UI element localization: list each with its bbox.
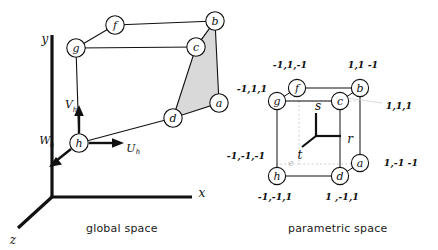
param-node-c: c — [331, 92, 348, 109]
local-basis-vectors: V h U h W h — [39, 98, 140, 168]
hexahedron-mapping-figure: y x z f — [0, 0, 438, 250]
node-label-h-param: h — [273, 170, 280, 183]
y-axis-label: y — [41, 32, 49, 46]
global-node-h: h — [70, 134, 88, 152]
t-axis-label: t — [298, 148, 303, 162]
node-label-b-param: b — [356, 82, 363, 95]
parametric-coordinate-labels: -1,1,-1 1,1 -1 -1,1,1 1,1,1 -1,-1,-1 1,-… — [227, 59, 418, 203]
global-node-c: c — [187, 38, 205, 56]
s-axis-label: s — [315, 99, 321, 113]
z-axis-line — [18, 197, 52, 228]
coord-label-d: 1 ,-1,1 — [325, 191, 359, 203]
global-node-g: g — [67, 39, 85, 57]
coord-label-a: 1,-1 -1 — [384, 157, 418, 169]
edge-g-c — [76, 47, 196, 48]
param-node-f: f — [288, 79, 305, 96]
global-space-caption: global space — [86, 222, 158, 235]
parametric-space-caption: parametric space — [288, 222, 387, 235]
diagram-canvas: y x z f — [0, 0, 438, 250]
u-vector-subscript: h — [136, 148, 141, 156]
u-vector-head — [112, 138, 124, 148]
coord-label-c: 1,1,1 — [386, 100, 412, 112]
param-node-d: d — [331, 167, 348, 184]
parametric-space-panel: e — [227, 59, 418, 203]
t-axis-line — [302, 136, 316, 147]
node-label-c-param: c — [337, 95, 343, 108]
node-label-e: e — [288, 158, 293, 168]
parametric-axes: s r t — [298, 99, 355, 162]
coord-label-h: -1,-1,1 — [258, 191, 292, 203]
param-node-a: a — [351, 154, 368, 171]
node-label-d-param: d — [336, 170, 343, 183]
global-space-panel: y x z f — [9, 12, 228, 247]
node-label-a: a — [216, 97, 223, 110]
coord-label-f: -1,1,-1 — [273, 59, 307, 71]
coord-label-b: 1,1 -1 — [348, 59, 378, 71]
global-node-b: b — [206, 12, 224, 30]
edge-h-d — [79, 118, 173, 143]
r-axis-label: r — [347, 132, 354, 146]
edge-f-b — [115, 21, 215, 25]
leader-line-c-coords — [347, 98, 382, 103]
coord-label-g: -1,1,1 — [237, 83, 267, 95]
global-node-d: d — [164, 109, 182, 127]
w-vector-subscript: h — [50, 141, 55, 149]
coord-label-e: -1,-1,-1 — [227, 150, 265, 162]
global-node-a: a — [210, 94, 228, 112]
global-axes: y x z — [9, 32, 206, 247]
v-vector-subscript: h — [73, 106, 78, 114]
node-label-b: b — [211, 15, 218, 28]
param-node-g: g — [268, 92, 285, 109]
w-vector-shaft — [56, 149, 71, 161]
node-label-c: c — [193, 41, 199, 54]
global-node-f: f — [106, 16, 124, 34]
z-axis-label: z — [9, 233, 17, 247]
node-label-d: d — [169, 112, 176, 125]
node-label-h: h — [75, 137, 82, 150]
parametric-nodes: f b g c a — [268, 79, 368, 184]
node-label-g: g — [72, 42, 79, 55]
param-node-h: h — [268, 167, 285, 184]
node-label-a-param: a — [357, 157, 364, 170]
node-label-g-param: g — [273, 95, 280, 108]
x-axis-label: x — [199, 186, 206, 200]
param-node-b: b — [351, 79, 368, 96]
